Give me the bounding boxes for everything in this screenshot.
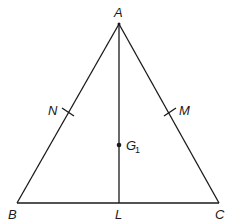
point-A-dot	[118, 23, 121, 26]
label-B: B	[8, 207, 17, 222]
label-G1-subscript: 1	[135, 145, 140, 155]
label-A: A	[113, 5, 123, 20]
triangle-diagram: A B C L N M G 1	[0, 0, 235, 224]
point-G1-dot	[117, 143, 122, 148]
label-C: C	[215, 207, 225, 222]
segment-AB	[17, 24, 119, 203]
segment-AC	[119, 24, 219, 203]
label-N: N	[48, 103, 58, 118]
label-L: L	[115, 207, 122, 222]
label-M: M	[179, 103, 190, 118]
